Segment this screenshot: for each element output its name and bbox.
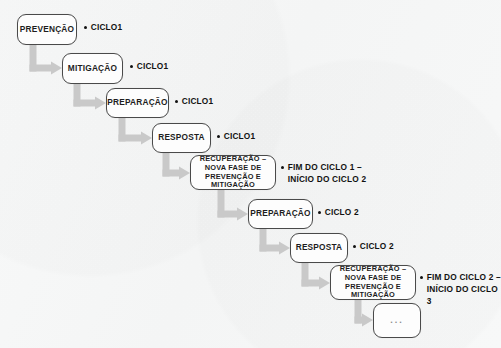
node-label: PREPARAÇÃO bbox=[107, 98, 167, 108]
node-preparacao-1[interactable]: PREPARAÇÃO bbox=[106, 88, 169, 118]
bullet-icon bbox=[84, 26, 87, 29]
node-prevencao-1[interactable]: PREVENÇÃO bbox=[17, 14, 77, 45]
arrow-preparacao2-to-resposta2 bbox=[260, 229, 291, 255]
annotation-text: CICLO 2 bbox=[360, 241, 394, 253]
bullet-icon bbox=[175, 100, 178, 103]
node-label: ... bbox=[390, 315, 404, 326]
arrow-recuperacao-to-preparacao2 bbox=[218, 190, 249, 221]
node-label: MITIGAÇÃO bbox=[68, 64, 117, 74]
annotation-note-recuperacao-1: FIM DO CICLO 1 – INÍCIO DO CICLO 2 bbox=[281, 162, 366, 186]
arrow-prevencao-to-mitigacao bbox=[30, 45, 63, 75]
node-recuperacao-2[interactable]: RECUPERAÇÃO – NOVA FASE DE PREVENÇÃO E M… bbox=[330, 265, 416, 300]
arrow-mitigacao-to-preparacao bbox=[74, 84, 107, 110]
bullet-icon bbox=[130, 65, 133, 68]
annotation-text: FIM DO CICLO 2 – INÍCIO DO CICLO 3 bbox=[427, 272, 501, 307]
bullet-icon bbox=[318, 211, 321, 214]
bullet-icon bbox=[420, 276, 423, 279]
node-label: RECUPERAÇÃO – NOVA FASE DE PREVENÇÃO E M… bbox=[335, 265, 411, 300]
node-label: PREVENÇÃO bbox=[20, 25, 74, 35]
diagram-canvas: PREVENÇÃOMITIGAÇÃOPREPARAÇÃORESPOSTARECU… bbox=[0, 0, 501, 348]
annotation-note-mitigacao-1: CICLO1 bbox=[130, 61, 168, 73]
node-continuacao[interactable]: ... bbox=[373, 303, 421, 338]
annotation-text: CICLO1 bbox=[182, 96, 214, 108]
arrow-resposta-to-recuperacao bbox=[163, 153, 191, 180]
annotation-note-preparacao-1: CICLO1 bbox=[175, 96, 213, 108]
node-label: RECUPERAÇÃO – NOVA FASE DE PREVENÇÃO E M… bbox=[195, 155, 271, 190]
annotation-text: CICLO1 bbox=[91, 22, 123, 34]
node-label: PREPARAÇÃO bbox=[250, 209, 310, 219]
annotation-text: CICLO1 bbox=[137, 61, 169, 73]
node-recuperacao-1[interactable]: RECUPERAÇÃO – NOVA FASE DE PREVENÇÃO E M… bbox=[190, 155, 276, 190]
annotation-text: FIM DO CICLO 1 – INÍCIO DO CICLO 2 bbox=[288, 162, 367, 186]
annotation-note-resposta-1: CICLO1 bbox=[217, 131, 255, 143]
arrow-recuperacao2-to-continuacao bbox=[355, 300, 374, 327]
node-resposta-1[interactable]: RESPOSTA bbox=[152, 123, 211, 153]
annotation-text: CICLO1 bbox=[224, 131, 256, 143]
bullet-icon bbox=[353, 245, 356, 248]
annotation-note-prevencao-1: CICLO1 bbox=[84, 22, 122, 34]
annotation-note-preparacao-2: CICLO 2 bbox=[318, 207, 359, 219]
node-label: RESPOSTA bbox=[296, 243, 343, 253]
arrow-resposta2-to-recuperacao2 bbox=[302, 263, 331, 290]
annotation-note-resposta-2: CICLO 2 bbox=[353, 241, 394, 253]
annotation-note-recuperacao-2: FIM DO CICLO 2 – INÍCIO DO CICLO 3 bbox=[420, 272, 501, 307]
node-resposta-2[interactable]: RESPOSTA bbox=[290, 233, 348, 263]
bullet-icon bbox=[281, 166, 284, 169]
node-label: RESPOSTA bbox=[158, 133, 205, 143]
node-preparacao-2[interactable]: PREPARAÇÃO bbox=[248, 199, 313, 229]
node-mitigacao-1[interactable]: MITIGAÇÃO bbox=[62, 53, 123, 84]
annotation-text: CICLO 2 bbox=[325, 207, 359, 219]
bullet-icon bbox=[217, 135, 220, 138]
arrow-preparacao-to-resposta bbox=[119, 118, 153, 145]
